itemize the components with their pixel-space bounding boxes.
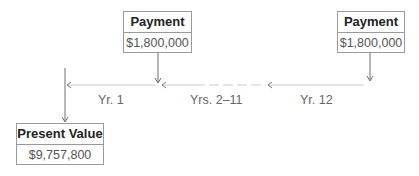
present-value-title: Present Value [17, 124, 103, 145]
payment-box-right: Payment $1,800,000 [337, 11, 405, 53]
label-yr-12: Yr. 12 [300, 93, 333, 107]
present-value-amount: $9,757,800 [17, 145, 103, 165]
label-yr-1: Yr. 1 [98, 93, 124, 107]
payment-title: Payment [124, 12, 191, 33]
payment-title: Payment [338, 12, 404, 33]
present-value-box: Present Value $9,757,800 [16, 123, 104, 165]
payment-amount: $1,800,000 [338, 33, 404, 53]
payment-box-left: Payment $1,800,000 [123, 11, 192, 53]
label-yrs-2-11: Yrs. 2–11 [190, 93, 243, 107]
payment-amount: $1,800,000 [124, 33, 191, 53]
